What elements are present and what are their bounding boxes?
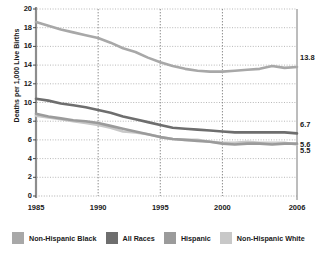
x-tick-label: 1985 <box>16 203 56 212</box>
end-value-label: 13.8 <box>300 53 315 62</box>
legend-label: Non-Hispanic White <box>237 234 305 243</box>
legend-swatch-icon <box>164 232 176 244</box>
x-tick-label: 2006 <box>277 203 317 212</box>
legend-item[interactable]: Non-Hispanic White <box>220 232 305 244</box>
plot-area <box>0 0 322 256</box>
legend-item[interactable]: All Races <box>106 232 155 244</box>
series-line-all-races <box>36 99 297 134</box>
legend-item[interactable]: Non-Hispanic Black <box>12 232 97 244</box>
legend-label: All Races <box>123 234 155 243</box>
x-tick-label: 1990 <box>78 203 118 212</box>
end-value-label: 5.5 <box>300 146 310 155</box>
series-line-non-hispanic-black <box>36 22 297 72</box>
legend-label: Non-Hispanic Black <box>29 234 97 243</box>
legend-swatch-icon <box>106 232 118 244</box>
infant-mortality-line-chart: Deaths per 1,000 Live Births 20181614121… <box>0 0 322 256</box>
legend-swatch-icon <box>220 232 232 244</box>
x-tick-label: 1995 <box>140 203 180 212</box>
legend-swatch-icon <box>12 232 24 244</box>
end-value-label: 6.7 <box>300 120 310 129</box>
legend-item[interactable]: Hispanic <box>164 232 211 244</box>
series-line-hispanic <box>36 114 297 145</box>
legend-label: Hispanic <box>181 234 211 243</box>
chart-legend: Non-Hispanic BlackAll RacesHispanicNon-H… <box>0 228 322 248</box>
x-tick-label: 2000 <box>202 203 242 212</box>
